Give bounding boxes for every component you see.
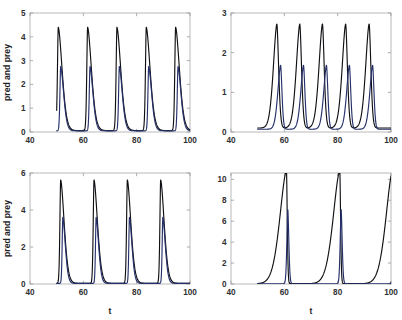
y-axis-title: pred and prey bbox=[2, 44, 12, 101]
x-tick-label: 80 bbox=[132, 288, 142, 297]
x-axis-title: t bbox=[109, 306, 112, 316]
y-tick-label: 0 bbox=[21, 280, 26, 289]
y-tick-label: 8 bbox=[222, 196, 227, 205]
series-line-predator bbox=[258, 171, 391, 284]
y-tick-label: 0 bbox=[222, 280, 227, 289]
x-tick-label: 80 bbox=[333, 136, 343, 145]
x-tick-label: 60 bbox=[280, 136, 290, 145]
x-tick-label: 60 bbox=[79, 136, 89, 145]
x-tick-label: 100 bbox=[183, 288, 197, 297]
plot-panel-top-right: 4060801000123 bbox=[201, 0, 402, 160]
x-tick-label: 40 bbox=[25, 136, 35, 145]
y-tick-label: 2 bbox=[21, 243, 26, 252]
plot-frame bbox=[231, 13, 391, 132]
x-tick-label: 80 bbox=[132, 136, 142, 145]
x-tick-label: 60 bbox=[79, 288, 89, 297]
y-tick-label: 6 bbox=[222, 217, 227, 226]
x-tick-label: 100 bbox=[384, 288, 398, 297]
plot-panel-top-left: 406080100012345pred and prey bbox=[0, 0, 201, 160]
x-tick-label: 100 bbox=[384, 136, 398, 145]
x-tick-label: 60 bbox=[280, 288, 290, 297]
x-tick-label: 40 bbox=[226, 288, 236, 297]
y-tick-label: 6 bbox=[21, 169, 26, 178]
x-axis-title: t bbox=[310, 306, 313, 316]
x-tick-label: 40 bbox=[25, 288, 35, 297]
y-tick-label: 4 bbox=[222, 238, 227, 247]
x-tick-label: 100 bbox=[183, 136, 197, 145]
plot-panel-bottom-left: 4060801000246pred and preyt bbox=[0, 160, 201, 320]
y-tick-label: 5 bbox=[21, 9, 26, 18]
y-tick-label: 2 bbox=[222, 259, 227, 268]
series-line-prey bbox=[57, 217, 190, 283]
x-tick-label: 80 bbox=[333, 288, 343, 297]
y-tick-label: 10 bbox=[217, 175, 227, 184]
plot-frame bbox=[30, 13, 190, 132]
x-tick-label: 40 bbox=[226, 136, 236, 145]
y-tick-label: 2 bbox=[21, 80, 26, 89]
y-tick-label: 4 bbox=[21, 206, 26, 215]
y-tick-label: 1 bbox=[21, 104, 26, 113]
y-tick-label: 0 bbox=[21, 128, 26, 137]
plot-frame bbox=[30, 173, 190, 284]
y-axis-title: pred and prey bbox=[2, 200, 12, 257]
y-tick-label: 2 bbox=[222, 49, 227, 58]
y-tick-label: 3 bbox=[222, 9, 227, 18]
y-tick-label: 3 bbox=[21, 57, 26, 66]
series-line-predator bbox=[57, 27, 190, 130]
series-line-predator bbox=[57, 180, 190, 283]
figure-canvas: 406080100012345pred and prey 40608010001… bbox=[0, 0, 402, 320]
y-tick-label: 1 bbox=[222, 88, 227, 97]
y-tick-label: 4 bbox=[21, 33, 26, 42]
plot-panel-bottom-right: 4060801000246810t bbox=[201, 160, 402, 320]
y-tick-label: 0 bbox=[222, 128, 227, 137]
plot-frame bbox=[231, 173, 391, 284]
series-line-prey bbox=[57, 67, 190, 131]
